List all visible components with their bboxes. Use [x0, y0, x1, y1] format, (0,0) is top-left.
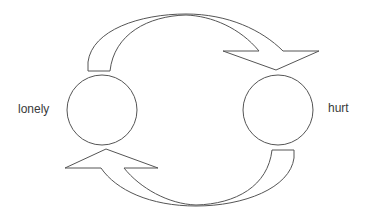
node-label-hurt: hurt: [328, 101, 349, 115]
node-circle-hurt: [243, 75, 313, 145]
upper-curved-arrow: [88, 14, 319, 71]
node-label-lonely: lonely: [18, 102, 49, 116]
cycle-diagram: lonely hurt: [0, 0, 368, 216]
lower-curved-arrow: [65, 149, 294, 206]
node-circle-lonely: [67, 75, 137, 145]
diagram-graphics: [0, 0, 368, 216]
